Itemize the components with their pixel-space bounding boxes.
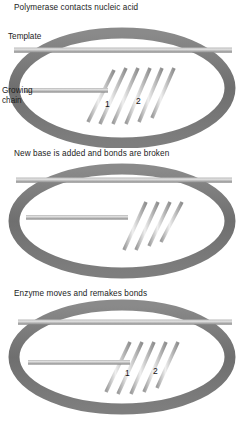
growing-chain-backbone <box>26 215 128 220</box>
panel-caption: Enzyme moves and remakes bonds <box>14 289 147 298</box>
panel-illustration <box>0 286 245 421</box>
growing-chain-backbone <box>28 360 130 365</box>
template-label: Template <box>8 32 41 42</box>
panel-caption: New base is added and bonds are broken <box>14 149 169 158</box>
panel-polymerase-contacts: Polymerase contacts nucleic acid <box>0 0 245 148</box>
panel-2-svg <box>0 146 245 288</box>
panel-illustration <box>0 146 245 288</box>
marker-label-1: 1 <box>105 99 110 109</box>
detached-bases <box>60 230 102 265</box>
figure-sheet: Polymerase contacts nucleic acid <box>0 0 245 421</box>
panel-illustration <box>0 0 245 148</box>
template-teeth <box>30 52 210 78</box>
growing-chain-label: Growing chain <box>2 86 33 106</box>
growing-chain-backbone <box>24 88 108 93</box>
incoming-nucleotides <box>124 202 182 250</box>
growing-chain-label-line2: chain <box>2 96 33 106</box>
template-teeth <box>32 182 211 216</box>
marker-label-2: 2 <box>136 96 141 106</box>
template-teeth <box>34 324 213 352</box>
panel-enzyme-moves: Enzyme moves and remakes bonds <box>0 286 245 421</box>
template-backbone <box>16 178 232 183</box>
panel-1-svg <box>0 0 245 148</box>
template-backbone <box>18 320 232 325</box>
marker-label-2: 2 <box>153 366 158 376</box>
template-backbone <box>14 48 232 53</box>
panel-new-base-added: New base is added and bonds are broken <box>0 146 245 288</box>
enzyme-ring <box>14 169 230 273</box>
panel-3-svg <box>0 286 245 421</box>
marker-label-1: 1 <box>125 368 130 378</box>
growing-chain-label-line1: Growing <box>2 86 33 96</box>
panel-caption: Polymerase contacts nucleic acid <box>14 3 138 12</box>
